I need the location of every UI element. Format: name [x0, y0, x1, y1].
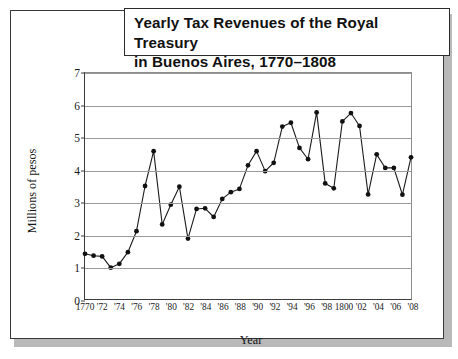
- plot-area: 012345671770'72'74'76'78'80'82'84'86'88'…: [84, 72, 412, 300]
- data-point-marker: [143, 184, 148, 189]
- data-point-marker: [203, 206, 208, 211]
- plot-wrapper: Millions of pesos 012345671770'72'74'76'…: [56, 66, 446, 316]
- data-point-marker: [246, 163, 251, 168]
- x-tick-label: '84: [200, 302, 211, 312]
- data-point-marker: [357, 124, 362, 129]
- y-tick-label: 5: [74, 132, 80, 144]
- x-tick-label: '92: [269, 302, 280, 312]
- data-point-marker: [160, 222, 165, 227]
- y-axis-label: Millions of pesos: [25, 149, 40, 234]
- y-tick-mark: [81, 268, 85, 269]
- x-tick-label: '78: [149, 302, 160, 312]
- data-point-marker: [314, 110, 319, 115]
- data-point-marker: [126, 250, 131, 255]
- data-point-marker: [194, 207, 199, 212]
- data-point-marker: [391, 166, 396, 171]
- y-gridline: [85, 236, 411, 237]
- y-gridline: [85, 203, 411, 204]
- chart-title-box: Yearly Tax Revenues of the Royal Treasur…: [124, 8, 450, 56]
- data-point-marker: [383, 166, 388, 171]
- x-axis-label: Year: [240, 333, 262, 348]
- x-tick-label: '02: [356, 302, 367, 312]
- x-tick-label: '72: [97, 302, 108, 312]
- data-point-marker: [83, 251, 88, 256]
- data-point-marker: [254, 149, 259, 154]
- y-tick-mark: [81, 73, 85, 74]
- figure-root: Yearly Tax Revenues of the Royal Treasur…: [0, 0, 458, 359]
- data-point-marker: [151, 149, 156, 154]
- x-tick-label: '94: [287, 302, 298, 312]
- data-point-marker: [211, 215, 216, 220]
- data-point-marker: [349, 111, 354, 116]
- x-tick-label: '82: [183, 302, 194, 312]
- series-polyline: [85, 112, 411, 267]
- x-tick-label: '74: [114, 302, 125, 312]
- y-gridline: [85, 138, 411, 139]
- data-point-marker: [306, 157, 311, 162]
- x-tick-label: 1770: [76, 302, 95, 312]
- y-tick-mark: [81, 203, 85, 204]
- x-tick-label: '04: [373, 302, 384, 312]
- x-tick-label: '98: [321, 302, 332, 312]
- y-tick-mark: [81, 105, 85, 106]
- data-point-marker: [323, 181, 328, 186]
- x-tick-label: '88: [235, 302, 246, 312]
- x-tick-label: '90: [252, 302, 263, 312]
- y-gridline: [85, 268, 411, 269]
- y-gridline: [85, 171, 411, 172]
- data-point-marker: [186, 236, 191, 241]
- data-point-marker: [374, 152, 379, 157]
- data-point-marker: [117, 261, 122, 266]
- data-series-line: [85, 73, 411, 299]
- y-gridline: [85, 106, 411, 107]
- data-point-marker: [177, 184, 182, 189]
- data-point-marker: [271, 160, 276, 165]
- y-tick-label: 1: [74, 262, 80, 274]
- data-point-marker: [228, 190, 233, 195]
- data-point-marker: [220, 197, 225, 202]
- y-tick-label: 6: [74, 100, 80, 112]
- data-point-marker: [366, 192, 371, 197]
- data-point-marker: [280, 124, 285, 129]
- x-tick-label: '08: [408, 302, 419, 312]
- x-tick-label: '76: [131, 302, 142, 312]
- y-tick-label: 4: [74, 165, 80, 177]
- x-tick-label: 1800: [335, 302, 354, 312]
- data-point-marker: [340, 119, 345, 124]
- data-point-marker: [400, 192, 405, 197]
- data-point-marker: [297, 146, 302, 151]
- y-gridline: [85, 73, 411, 74]
- x-tick-label: '86: [218, 302, 229, 312]
- y-tick-mark: [81, 235, 85, 236]
- data-point-marker: [100, 254, 105, 259]
- data-point-marker: [134, 229, 139, 234]
- data-point-marker: [409, 155, 414, 160]
- y-tick-mark: [81, 170, 85, 171]
- y-tick-mark: [81, 138, 85, 139]
- data-point-marker: [331, 186, 336, 191]
- y-tick-label: 7: [74, 67, 80, 79]
- data-point-marker: [289, 120, 294, 125]
- chart-title: Yearly Tax Revenues of the Royal Treasur…: [134, 13, 441, 72]
- x-tick-label: '96: [304, 302, 315, 312]
- x-tick-label: '06: [390, 302, 401, 312]
- data-point-marker: [91, 253, 96, 258]
- x-tick-label: '80: [166, 302, 177, 312]
- data-point-marker: [237, 187, 242, 192]
- y-tick-label: 3: [74, 197, 80, 209]
- y-tick-label: 2: [74, 230, 80, 242]
